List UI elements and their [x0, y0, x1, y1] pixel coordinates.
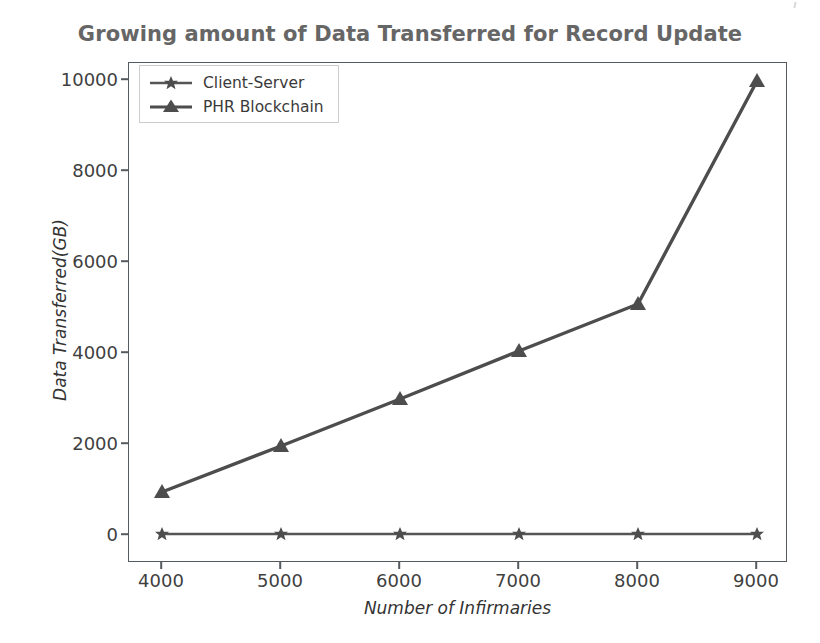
x-tick-mark-5000	[279, 562, 281, 569]
plot-area: Client-Server PHR Blockchain	[128, 62, 787, 562]
x-tick-mark-7000	[517, 562, 519, 569]
legend-item-phr-blockchain: PHR Blockchain	[148, 95, 330, 119]
x-tick-label-8000: 8000	[577, 570, 697, 591]
legend-item-client-server: Client-Server	[148, 71, 330, 95]
x-tick-label-7000: 7000	[458, 570, 578, 591]
data-point-phr-8000	[630, 296, 646, 310]
y-tick-mark-8000	[121, 169, 128, 171]
legend-marker-star-icon	[148, 73, 194, 93]
y-tick-mark-10000	[121, 78, 128, 80]
chart-figure: Growing amount of Data Transferred for R…	[0, 0, 820, 643]
chart-title: Growing amount of Data Transferred for R…	[0, 22, 820, 46]
y-tick-label-8000: 8000	[8, 160, 118, 181]
x-tick-mark-9000	[755, 562, 757, 569]
y-tick-mark-2000	[121, 442, 128, 444]
x-tick-label-4000: 4000	[101, 570, 221, 591]
y-tick-label-10000: 10000	[8, 69, 118, 90]
y-axis-label: Data Transferred(GB)	[50, 190, 70, 430]
x-tick-mark-6000	[398, 562, 400, 569]
data-point-phr-9000	[749, 73, 765, 87]
legend-label-phr-blockchain: PHR Blockchain	[203, 98, 324, 116]
x-tick-label-6000: 6000	[339, 570, 459, 591]
legend-label-client-server: Client-Server	[203, 74, 304, 92]
chart-legend: Client-Server PHR Blockchain	[139, 65, 339, 123]
series-line-phr-blockchain	[162, 81, 757, 492]
y-tick-mark-4000	[121, 351, 128, 353]
x-tick-label-5000: 5000	[220, 570, 340, 591]
x-axis-label: Number of Infirmaries	[128, 598, 787, 618]
legend-marker-triangle-icon	[148, 97, 194, 117]
x-tick-mark-4000	[160, 562, 162, 569]
y-tick-label-0: 0	[8, 524, 118, 545]
y-tick-label-2000: 2000	[8, 433, 118, 454]
x-tick-label-9000: 9000	[696, 570, 816, 591]
y-tick-mark-6000	[121, 260, 128, 262]
y-tick-mark-0	[121, 533, 128, 535]
x-tick-mark-8000	[636, 562, 638, 569]
series-canvas	[129, 63, 788, 563]
scan-artifact	[793, 2, 796, 8]
